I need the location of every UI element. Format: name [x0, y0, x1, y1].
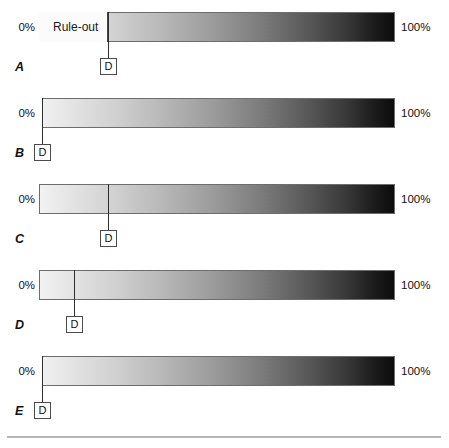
panel-c: 0% 100% D C: [0, 172, 449, 258]
panel-letter-d: D: [15, 318, 24, 332]
footer-divider: [7, 436, 441, 438]
scale-bar-c: [39, 184, 395, 214]
gradient-bar-c: [39, 184, 395, 214]
scale-bar-e: [39, 356, 395, 386]
marker-tick-e: [42, 356, 43, 404]
panel-letter-b: B: [15, 146, 24, 160]
scale-bar-a: Rule-out: [39, 12, 395, 42]
axis-label-right-d: 100%: [401, 270, 430, 300]
axis-label-left-e: 0%: [10, 356, 35, 386]
axis-label-right-b: 100%: [401, 98, 430, 128]
marker-box-d: D: [66, 316, 83, 333]
axis-label-left-d: 0%: [10, 270, 35, 300]
axis-label-left-c: 0%: [10, 184, 35, 214]
gradient-bar-e: [39, 356, 395, 386]
panel-letter-a: A: [15, 60, 24, 74]
axis-label-left-a: 0%: [10, 12, 35, 42]
axis-label-right-e: 100%: [401, 356, 430, 386]
panel-a: 0% Rule-out 100% D A: [0, 0, 449, 86]
gradient-bar-d: [39, 270, 395, 300]
panel-d: 0% 100% D D: [0, 258, 449, 344]
marker-tick-d: [74, 270, 75, 318]
rule-out-label-a: Rule-out: [39, 12, 98, 42]
marker-box-c: D: [100, 230, 117, 247]
panel-e: 0% 100% D E: [0, 344, 449, 430]
marker-tick-a: [108, 12, 109, 60]
panel-letter-e: E: [15, 404, 23, 418]
axis-label-right-c: 100%: [401, 184, 430, 214]
probability-scale-figure: 0% Rule-out 100% D A 0% 100% D B 0%: [0, 0, 449, 448]
panel-letter-c: C: [15, 232, 24, 246]
marker-box-a: D: [100, 58, 117, 75]
marker-tick-c: [108, 184, 109, 232]
axis-label-right-a: 100%: [401, 12, 430, 42]
marker-box-e: D: [34, 402, 51, 419]
scale-bar-b: [39, 98, 395, 128]
scale-bar-d: [39, 270, 395, 300]
panel-b: 0% 100% D B: [0, 86, 449, 172]
marker-tick-b: [42, 98, 43, 146]
marker-box-b: D: [34, 144, 51, 161]
gradient-bar-b: [39, 98, 395, 128]
rule-out-zone-a: Rule-out: [39, 12, 108, 42]
axis-label-left-b: 0%: [10, 98, 35, 128]
